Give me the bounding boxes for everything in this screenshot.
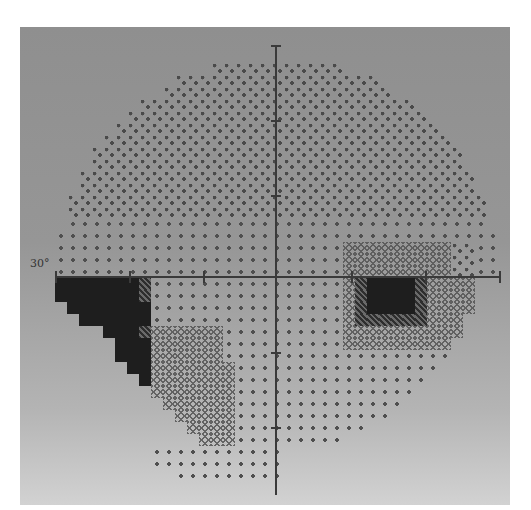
- field-cell: [295, 134, 307, 146]
- field-cell: [175, 410, 187, 422]
- field-cell: [127, 206, 139, 218]
- field-cell: [247, 374, 259, 386]
- field-cell: [175, 98, 187, 110]
- field-cell: [187, 122, 199, 134]
- field-cell: [151, 242, 163, 254]
- field-cell: [115, 314, 127, 326]
- field-cell: [355, 86, 367, 98]
- field-cell: [91, 242, 103, 254]
- field-cell: [331, 134, 343, 146]
- field-cell: [319, 422, 331, 434]
- field-cell: [103, 158, 115, 170]
- field-cell: [403, 278, 415, 290]
- field-cell: [367, 194, 379, 206]
- field-cell: [283, 158, 295, 170]
- field-cell: [355, 170, 367, 182]
- field-cell: [259, 470, 271, 482]
- field-cell: [283, 134, 295, 146]
- field-cell: [115, 122, 127, 134]
- field-cell: [331, 62, 343, 74]
- field-cell: [283, 254, 295, 266]
- field-cell: [355, 182, 367, 194]
- field-cell: [283, 290, 295, 302]
- field-cell: [379, 242, 391, 254]
- field-cell: [307, 374, 319, 386]
- field-cell: [115, 242, 127, 254]
- field-cell: [367, 338, 379, 350]
- field-cell: [355, 302, 367, 314]
- field-cell: [151, 386, 163, 398]
- field-cell: [379, 146, 391, 158]
- field-cell: [211, 98, 223, 110]
- field-cell: [415, 242, 427, 254]
- field-cell: [223, 314, 235, 326]
- field-cell: [271, 362, 283, 374]
- field-cell: [175, 350, 187, 362]
- field-cell: [283, 338, 295, 350]
- field-cell: [415, 302, 427, 314]
- field-cell: [319, 374, 331, 386]
- field-cell: [451, 230, 463, 242]
- field-cell: [295, 182, 307, 194]
- field-cell: [175, 158, 187, 170]
- field-cell: [355, 146, 367, 158]
- field-cell: [355, 362, 367, 374]
- field-cell: [235, 374, 247, 386]
- field-cell: [367, 410, 379, 422]
- field-cell: [367, 398, 379, 410]
- field-cell: [355, 314, 367, 326]
- field-cell: [307, 326, 319, 338]
- field-cell: [127, 314, 139, 326]
- field-cell: [151, 278, 163, 290]
- field-cell: [367, 254, 379, 266]
- field-cell: [343, 386, 355, 398]
- field-cell: [223, 62, 235, 74]
- field-cell: [319, 434, 331, 446]
- field-cell: [211, 122, 223, 134]
- field-cell: [199, 242, 211, 254]
- field-cell: [127, 134, 139, 146]
- field-cell: [139, 146, 151, 158]
- field-cell: [139, 158, 151, 170]
- field-cell: [355, 386, 367, 398]
- field-cell: [235, 350, 247, 362]
- field-cell: [187, 326, 199, 338]
- field-cell: [235, 290, 247, 302]
- field-cell: [163, 230, 175, 242]
- field-cell: [259, 86, 271, 98]
- field-cell: [319, 290, 331, 302]
- field-cell: [223, 110, 235, 122]
- field-cell: [319, 242, 331, 254]
- field-cell: [427, 338, 439, 350]
- field-cell: [259, 194, 271, 206]
- field-cell: [271, 338, 283, 350]
- field-cell: [127, 362, 139, 374]
- field-cell: [247, 86, 259, 98]
- field-cell: [127, 350, 139, 362]
- field-cell: [139, 350, 151, 362]
- field-cell: [223, 86, 235, 98]
- field-cell: [175, 74, 187, 86]
- field-cell: [235, 338, 247, 350]
- field-cell: [103, 182, 115, 194]
- field-cell: [295, 170, 307, 182]
- field-cell: [343, 422, 355, 434]
- field-cell: [295, 410, 307, 422]
- field-cell: [199, 458, 211, 470]
- field-cell: [295, 110, 307, 122]
- field-cell: [415, 194, 427, 206]
- field-cell: [247, 434, 259, 446]
- field-cell: [379, 134, 391, 146]
- field-cell: [307, 278, 319, 290]
- field-cell: [295, 278, 307, 290]
- field-cell: [283, 110, 295, 122]
- field-cell: [379, 254, 391, 266]
- field-cell: [163, 302, 175, 314]
- field-cell: [247, 230, 259, 242]
- field-cell: [355, 206, 367, 218]
- field-cell: [151, 98, 163, 110]
- field-cell: [307, 134, 319, 146]
- field-cell: [295, 242, 307, 254]
- field-cell: [211, 278, 223, 290]
- field-cell: [235, 470, 247, 482]
